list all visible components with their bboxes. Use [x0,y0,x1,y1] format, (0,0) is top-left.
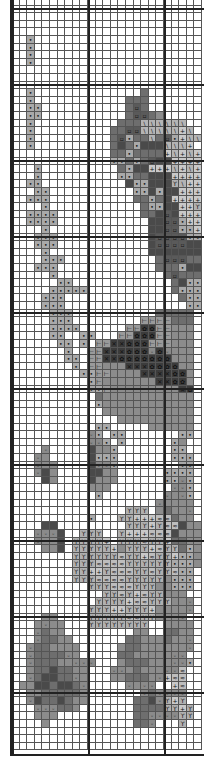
stitch-cell [156,256,164,264]
stitch-cell: ◦ [35,705,43,713]
stitch-cell [126,408,134,416]
stitch-cell [141,135,149,143]
stitch-cell: ◦ [179,652,187,660]
stitch-cell: \ [179,180,187,188]
grid-cell [58,355,66,363]
grid-cell [126,492,134,500]
stitch-cell: • [134,142,142,150]
grid-cell [20,44,28,52]
stitch-cell [194,241,202,249]
grid-cell [118,697,126,705]
grid-cell [126,226,134,234]
grid-cell [134,44,142,52]
grid-cell [58,484,66,492]
grid-cell [58,97,66,105]
grid-cell [156,51,164,59]
stitch-cell: ≈ [156,545,164,553]
grid-cell [194,591,202,599]
stitch-cell: ◦ [35,636,43,644]
grid-cell [42,97,50,105]
stitch-cell: ◦ [172,659,180,667]
stitch-cell [50,674,58,682]
stitch-cell: • [118,173,126,181]
stitch-cell: • [179,469,187,477]
grid-cell [73,507,81,515]
stitch-cell [179,408,187,416]
grid-cell [58,591,66,599]
stitch-cell: • [35,165,43,173]
grid-cell [80,621,88,629]
grid-cell [118,287,126,295]
stitch-cell [134,378,142,386]
grid-cell [118,112,126,120]
stitch-cell [149,401,157,409]
grid-cell [149,21,157,29]
stitch-cell: ϒ [141,621,149,629]
stitch-cell: + [194,218,202,226]
grid-cell [194,606,202,614]
stitch-cell [126,401,134,409]
grid-cell [126,629,134,637]
grid-cell [35,492,43,500]
major-gridline [12,616,204,618]
stitch-cell [118,150,126,158]
grid-cell [118,317,126,325]
grid-cell [96,112,104,120]
grid-cell [194,697,202,705]
stitch-cell: ✿ [141,348,149,356]
grid-cell [96,408,104,416]
stitch-cell [187,264,195,272]
stitch-cell: + [187,218,195,226]
stitch-cell: \ [179,120,187,128]
stitch-cell: \ [172,165,180,173]
grid-cell [42,735,50,743]
stitch-cell: • [96,431,104,439]
stitch-cell: ✕ [111,348,119,356]
stitch-cell: \ [172,127,180,135]
stitch-cell: + [194,165,202,173]
grid-cell [156,59,164,67]
grid-cell [65,553,73,561]
stitch-cell: • [42,188,50,196]
grid-cell [20,583,28,591]
grid-cell [20,355,28,363]
stitch-cell [118,545,126,553]
stitch-cell [118,416,126,424]
stitch-cell [172,355,180,363]
grid-cell [111,272,119,280]
stitch-cell: ▫ [172,218,180,226]
grid-cell [141,241,149,249]
grid-cell [156,287,164,295]
stitch-cell: • [96,454,104,462]
grid-cell [58,477,66,485]
grid-cell [156,302,164,310]
grid-cell [80,28,88,36]
grid-cell [73,530,81,538]
grid-cell [194,439,202,447]
grid-cell [96,591,104,599]
grid-cell [179,36,187,44]
grid-cell [126,484,134,492]
grid-cell [50,568,58,576]
stitch-cell [179,348,187,356]
major-gridline [12,464,204,466]
stitch-cell [42,469,50,477]
grid-cell [80,743,88,751]
grid-cell [194,576,202,584]
grid-cell [42,36,50,44]
stitch-cell [118,120,126,128]
grid-cell [126,211,134,219]
stitch-cell: ◦ [172,652,180,660]
grid-cell [187,13,195,21]
stitch-cell [42,636,50,644]
grid-cell [149,51,157,59]
grid-cell [73,735,81,743]
grid-cell [27,629,35,637]
grid-cell [65,370,73,378]
grid-cell [126,705,134,713]
grid-cell [187,36,195,44]
grid-cell [156,104,164,112]
grid-cell [42,431,50,439]
grid-cell [141,477,149,485]
grid-cell [80,363,88,371]
